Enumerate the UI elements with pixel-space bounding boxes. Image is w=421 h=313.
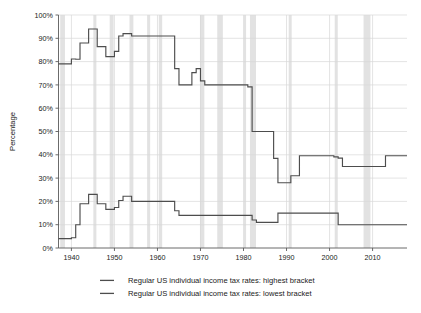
x-axis-tick-label: 1970 (192, 253, 208, 262)
x-axis-tick-label: 1960 (149, 253, 165, 262)
x-axis-tick-label: 2010 (365, 253, 381, 262)
x-axis-tick-label: 1940 (63, 253, 79, 262)
y-axis-title-group: Percentage (8, 112, 17, 151)
y-axis-tick-label: 70% (39, 81, 54, 90)
x-axis-tick-label: 2000 (322, 253, 338, 262)
x-axis-tick-label: 1950 (106, 253, 122, 262)
x-axis-tick-label: 1980 (236, 253, 252, 262)
y-axis-tick-label: 20% (39, 197, 54, 206)
y-axis-tick-label: 50% (39, 127, 54, 136)
x-tick-labels-group: 19401950196019701980199020002010 (63, 253, 380, 262)
x-axis-tick-label: 1990 (279, 253, 295, 262)
chart-container: 0%10%20%30%40%50%60%70%80%90%100% 194019… (0, 0, 421, 313)
y-axis-tick-label: 40% (39, 150, 54, 159)
y-axis-title: Percentage (8, 112, 17, 151)
tax-rate-line-chart: 0%10%20%30%40%50%60%70%80%90%100% 194019… (0, 0, 421, 313)
y-tick-labels-group: 0%10%20%30%40%50%60%70%80%90%100% (35, 11, 54, 253)
legend-item-label: Regular US individual income tax rates: … (128, 276, 315, 285)
y-axis-tick-label: 30% (39, 174, 54, 183)
y-axis-tick-label: 0% (43, 244, 54, 253)
y-axis-tick-label: 10% (39, 220, 54, 229)
legend-item-label: Regular US individual income tax rates: … (128, 289, 312, 298)
legend-group: Regular US individual income tax rates: … (100, 276, 315, 298)
y-axis-tick-label: 100% (35, 11, 54, 20)
y-axis-tick-label: 90% (39, 34, 54, 43)
y-axis-tick-label: 80% (39, 57, 54, 66)
y-axis-tick-label: 60% (39, 104, 54, 113)
